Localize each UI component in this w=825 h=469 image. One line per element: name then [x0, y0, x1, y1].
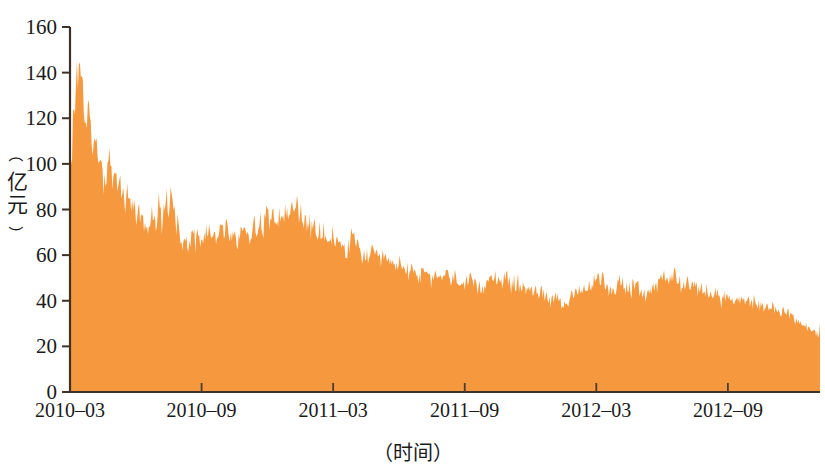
x-tick-label: 2011–03 — [299, 399, 368, 421]
y-tick-label: 120 — [26, 106, 58, 130]
y-tick-label: 160 — [26, 15, 58, 39]
x-tick-label: 2012–03 — [561, 399, 631, 421]
area-chart: 020406080100120140160 2010–032010–092011… — [0, 0, 825, 469]
y-tick-label: 20 — [36, 334, 57, 358]
y-tick-label: 60 — [36, 243, 57, 267]
x-axis-title: （时间） — [0, 437, 825, 466]
chart-container: 020406080100120140160 2010–032010–092011… — [0, 0, 825, 469]
x-tick-label: 2011–09 — [430, 399, 499, 421]
y-axis-title-paren-open: ﹙ — [6, 145, 29, 175]
x-tick-label: 2010–03 — [35, 399, 105, 421]
plot-area — [70, 61, 820, 392]
y-tick-label: 80 — [36, 198, 57, 222]
y-axis-title: ﹙ 亿 元 ﹚ — [2, 148, 32, 240]
x-tick-label: 2010–09 — [167, 399, 237, 421]
area-series-path — [70, 61, 820, 392]
y-tick-label: 140 — [26, 61, 58, 85]
x-tick-label: 2012–09 — [693, 399, 763, 421]
y-axis-ticks: 020406080100120140160 — [26, 15, 71, 404]
y-tick-label: 40 — [36, 289, 57, 313]
y-axis-title-paren-close: ﹚ — [6, 214, 29, 244]
